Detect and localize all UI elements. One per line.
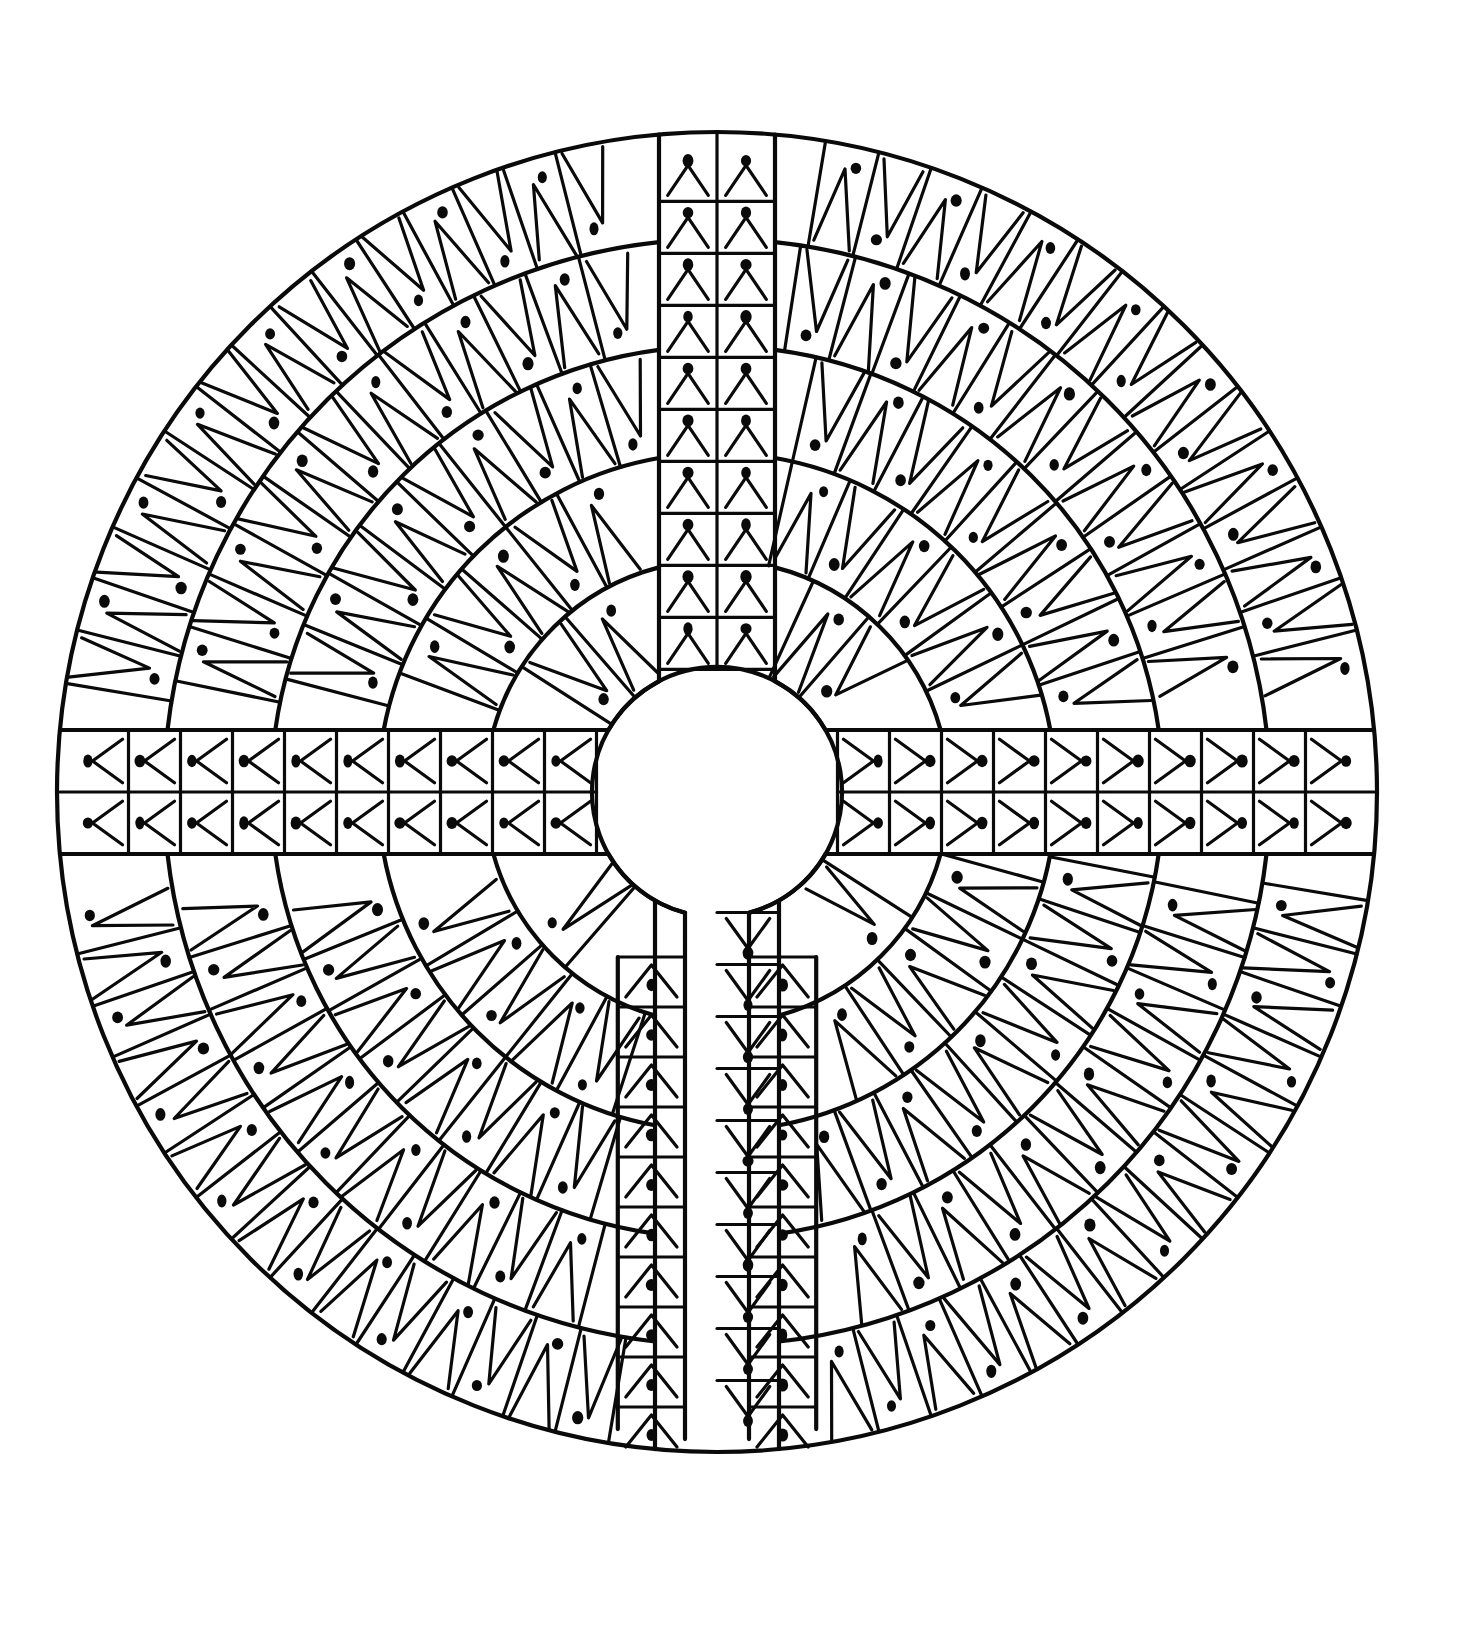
- labyrinth-drawing: [0, 0, 1476, 1632]
- triangle-pattern: [60, 135, 1374, 1447]
- labyrinth-artwork: [0, 0, 1476, 1632]
